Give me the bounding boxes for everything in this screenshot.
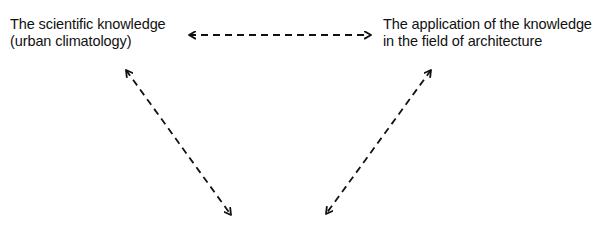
connectors [0,0,605,231]
double-arrow-right-bottom-icon [326,70,431,214]
double-arrow-left-bottom-icon [126,70,231,215]
